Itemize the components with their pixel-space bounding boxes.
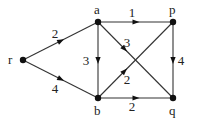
edge-weight-label: 2 — [129, 99, 136, 114]
weighted-directed-graph: 24134232 rapbq — [0, 0, 197, 121]
edge-weight-label: 3 — [124, 35, 131, 50]
edge-weight-label: 1 — [129, 5, 136, 20]
node-label: a — [94, 2, 100, 17]
arrowhead-icon — [133, 19, 140, 24]
edge-a-b: 3 — [83, 22, 101, 98]
edge-b-q: 2 — [98, 95, 173, 114]
node-q: q — [169, 95, 176, 118]
node-b: b — [94, 95, 101, 118]
arrowhead-icon — [95, 57, 100, 64]
edge-weight-label: 3 — [83, 53, 90, 68]
edge-a-p: 1 — [98, 5, 173, 25]
node-dot-icon — [95, 95, 101, 101]
edge-weight-label: 4 — [52, 81, 59, 96]
node-label: r — [8, 52, 13, 67]
edge-p-q: 4 — [170, 22, 184, 98]
node-r: r — [8, 52, 26, 67]
arrowhead-icon — [170, 57, 175, 64]
edge-weight-label: 4 — [178, 53, 185, 68]
node-dot-icon — [20, 57, 26, 63]
nodes-layer: rapbq — [8, 2, 176, 118]
node-dot-icon — [95, 19, 101, 25]
edges-layer: 24134232 — [23, 5, 185, 114]
node-dot-icon — [170, 95, 176, 101]
node-label: b — [94, 103, 101, 118]
node-label: p — [169, 2, 176, 17]
node-a: a — [94, 2, 101, 25]
node-p: p — [169, 2, 176, 25]
edge-weight-label: 2 — [124, 72, 131, 87]
node-label: q — [169, 103, 176, 118]
edge-weight-label: 2 — [52, 26, 59, 41]
node-dot-icon — [170, 19, 176, 25]
